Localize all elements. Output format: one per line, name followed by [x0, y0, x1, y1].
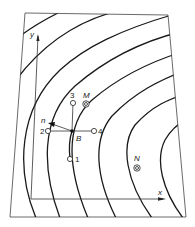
target-M-label: M — [83, 91, 90, 100]
center-label-B: B — [76, 134, 82, 143]
grid-point-2 — [45, 128, 50, 133]
stencil-vertical — [72, 103, 73, 131]
grid-point-3 — [70, 100, 75, 105]
contour-3 — [24, 14, 175, 218]
y-axis-arrow-icon — [36, 34, 39, 41]
contour-5 — [72, 52, 182, 218]
normal-vector — [52, 124, 72, 131]
contour-1 — [20, 13, 58, 36]
x-axis-label: x — [157, 188, 163, 197]
target-N-inner — [136, 167, 139, 170]
contour-diagram: y x n 2 4 3 1 B M N — [0, 0, 195, 227]
grid-point-1 — [67, 156, 72, 161]
normal-label: n — [41, 116, 46, 125]
y-axis-label: y — [29, 30, 35, 39]
grid-point-1-label: 1 — [75, 155, 80, 164]
contour-6 — [99, 70, 186, 218]
target-N-label: N — [134, 154, 140, 163]
grid-point-4-label: 4 — [98, 127, 103, 136]
contour-8 — [161, 118, 190, 218]
grid-point-4 — [91, 128, 96, 133]
grid-point-3-label: 3 — [70, 91, 75, 100]
x-axis-arrow-icon — [158, 197, 166, 200]
grid-point-2-label: 2 — [40, 127, 45, 136]
target-M-inner — [85, 103, 88, 106]
center-point-B — [70, 129, 74, 133]
